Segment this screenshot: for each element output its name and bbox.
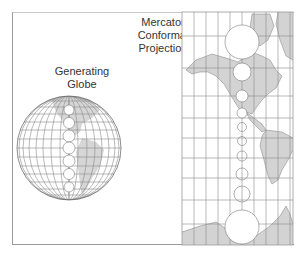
mercator-map xyxy=(182,12,293,245)
tissot-circle xyxy=(233,63,251,81)
tissot-circle xyxy=(236,90,248,102)
diagram-canvas xyxy=(0,0,306,256)
tissot-circle xyxy=(225,25,259,59)
tissot-circle xyxy=(237,108,247,118)
generating-globe xyxy=(17,96,121,200)
tissot-circle xyxy=(225,210,259,244)
